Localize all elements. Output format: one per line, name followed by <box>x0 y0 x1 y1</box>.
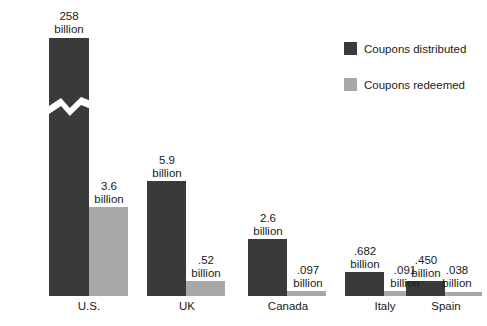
legend-label-1: Coupons redeemed <box>364 79 465 91</box>
legend-entry-0: Coupons distributed <box>344 42 466 55</box>
legend-entry-1: Coupons redeemed <box>344 78 466 91</box>
legend-swatch-distributed <box>344 42 357 55</box>
legend-swatch-redeemed <box>344 78 357 91</box>
coupon-bar-chart: 258billion3.6billion5.9billion.52billion… <box>0 0 487 326</box>
chart-legend: Coupons distributedCoupons redeemed <box>344 42 466 114</box>
category-label-uk: UK <box>157 300 217 313</box>
category-label-spain: Spain <box>416 300 476 313</box>
category-label-canada: Canada <box>258 300 318 313</box>
category-label-us: U.S. <box>59 300 119 313</box>
legend-label-0: Coupons distributed <box>364 43 466 55</box>
category-label-italy: Italy <box>355 300 415 313</box>
